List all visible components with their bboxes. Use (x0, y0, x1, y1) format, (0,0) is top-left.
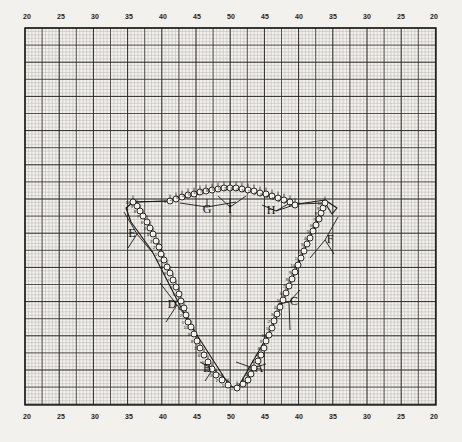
marker-number: 10 (290, 263, 295, 268)
axis-tick-top-3: 35 (125, 13, 133, 20)
axis-tick-top-4: 40 (159, 13, 167, 20)
axis-tick-bottom-1: 25 (57, 413, 65, 420)
marker-number: 10 (317, 201, 322, 206)
axis-tick-bottom-5: 45 (193, 413, 201, 420)
axis-tick-top-5: 45 (193, 13, 201, 20)
axis-tick-bottom-2: 30 (91, 413, 99, 420)
axis-tick-top-10: 30 (363, 13, 371, 20)
segment-letter-D: D (168, 297, 177, 311)
axis-tick-bottom-7: 45 (261, 413, 269, 420)
axis-tick-bottom-8: 40 (295, 413, 303, 420)
segment-letter-G: G (203, 202, 212, 216)
figure-page: 1234567891012345678910123456789101234567… (0, 0, 462, 442)
axis-tick-bottom-0: 20 (23, 413, 31, 420)
axis-tick-bottom-9: 35 (329, 413, 337, 420)
axis-tick-top-7: 45 (261, 13, 269, 20)
axis-tick-bottom-11: 25 (397, 413, 405, 420)
axis-tick-top-9: 35 (329, 13, 337, 20)
segment-letter-A: A (255, 361, 264, 375)
axis-tick-top-8: 40 (295, 13, 303, 20)
axis-tick-bottom-4: 40 (159, 413, 167, 420)
axis-tick-top-6: 50 (227, 13, 235, 20)
segment-letter-C: C (290, 294, 298, 308)
axis-tick-top-11: 25 (397, 13, 405, 20)
segment-letter-B: B (203, 361, 211, 375)
marker-number: 10 (156, 258, 161, 263)
axis-tick-top-0: 20 (23, 13, 31, 20)
segment-letter-E: E (128, 226, 135, 240)
axis-tick-bottom-10: 30 (363, 413, 371, 420)
segment-letter-H: H (267, 203, 276, 217)
axis-tick-bottom-12: 20 (430, 413, 438, 420)
grid-plot: 1234567891012345678910123456789101234567… (0, 0, 462, 442)
segment-letter-F: F (327, 232, 334, 246)
marker-number: 10 (125, 200, 130, 205)
marker-number: 10 (261, 333, 266, 338)
axis-tick-bottom-3: 35 (125, 413, 133, 420)
axis-tick-top-2: 30 (91, 13, 99, 20)
axis-tick-top-12: 20 (430, 13, 438, 20)
axis-tick-top-1: 25 (57, 13, 65, 20)
axis-tick-bottom-6: 50 (227, 413, 235, 420)
